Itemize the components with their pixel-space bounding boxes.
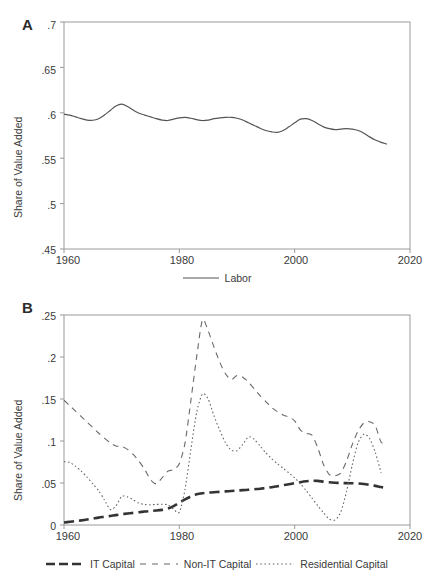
legend-label-labor: Labor bbox=[220, 272, 256, 284]
panel-a-legend: Labor bbox=[0, 272, 437, 284]
panel-b-legend: IT Capital Non-IT Capital Residential Ca… bbox=[0, 558, 437, 570]
line-swatch-solid-icon bbox=[182, 273, 220, 283]
legend-label-it-capital: IT Capital bbox=[85, 558, 139, 570]
panel-a-plot bbox=[0, 0, 437, 275]
legend-label-non-it-capital: Non-IT Capital bbox=[179, 558, 256, 570]
legend-entry-residential-capital[interactable]: Residential Capital bbox=[255, 558, 392, 570]
legend-entry-it-capital[interactable]: IT Capital bbox=[45, 558, 139, 570]
legend-label-residential-capital: Residential Capital bbox=[295, 558, 392, 570]
line-swatch-dotted-icon bbox=[255, 559, 295, 569]
figure-container: A Share of Value Added .45 .5 .55 .6 .65… bbox=[0, 0, 437, 587]
line-swatch-dash-icon bbox=[139, 559, 179, 569]
line-swatch-long-dash-icon bbox=[45, 559, 85, 569]
legend-entry-non-it-capital[interactable]: Non-IT Capital bbox=[139, 558, 256, 570]
panel-b-plot bbox=[0, 296, 437, 556]
panel-b: B Share of Value Added 0 .05 .1 .15 .2 .… bbox=[0, 296, 437, 556]
legend-entry-labor[interactable]: Labor bbox=[182, 272, 256, 284]
panel-a: A Share of Value Added .45 .5 .55 .6 .65… bbox=[0, 0, 437, 275]
